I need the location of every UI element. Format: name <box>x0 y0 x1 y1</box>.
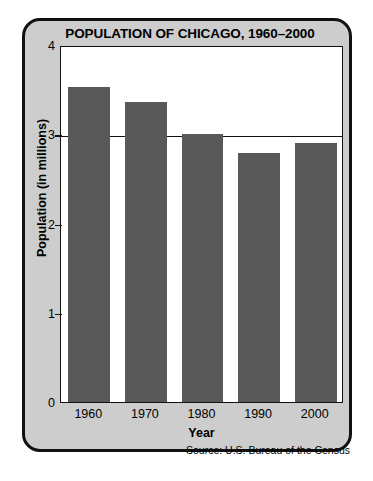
x-axis-title: Year <box>60 426 343 440</box>
page-scan-artifact <box>0 466 373 481</box>
chart-title: POPULATION OF CHICAGO, 1960–2000 <box>25 26 355 41</box>
x-axis-tick-labels: 19601970198019902000 <box>60 407 343 427</box>
source-note: Source: U.S. Bureau of the Census <box>60 444 350 456</box>
y-axis-tick-labels: 01234 <box>25 46 55 403</box>
y-tick-label-1: 1 <box>29 307 55 321</box>
plot-area <box>60 46 343 403</box>
bar-1980 <box>182 134 224 402</box>
x-tick-label-1980: 1980 <box>188 407 216 421</box>
bars-layer <box>61 47 342 402</box>
x-tick-label-1960: 1960 <box>74 407 102 421</box>
bar-2000 <box>295 143 337 402</box>
chart-card: POPULATION OF CHICAGO, 1960–2000 Populat… <box>22 18 352 452</box>
y-tick-mark-1 <box>55 314 62 316</box>
bar-1990 <box>238 153 280 402</box>
x-tick-label-1990: 1990 <box>244 407 272 421</box>
x-tick-label-1970: 1970 <box>131 407 159 421</box>
bar-1970 <box>125 102 167 402</box>
y-tick-mark-3 <box>55 135 62 137</box>
y-tick-mark-2 <box>55 225 62 227</box>
y-tick-label-0: 0 <box>29 396 55 410</box>
bar-1960 <box>68 87 110 402</box>
y-tick-label-3: 3 <box>29 128 55 142</box>
y-tick-label-4: 4 <box>29 39 55 53</box>
x-tick-label-2000: 2000 <box>301 407 329 421</box>
y-tick-label-2: 2 <box>29 218 55 232</box>
